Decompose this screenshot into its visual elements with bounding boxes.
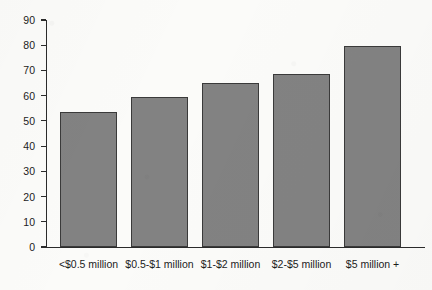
bar	[131, 97, 188, 247]
y-tick-mark	[41, 196, 46, 197]
y-tick-label: 70	[5, 65, 35, 75]
y-tick-mark	[41, 19, 46, 20]
y-tick-mark	[41, 45, 46, 46]
y-tick-label: 80	[5, 40, 35, 50]
y-tick-mark	[41, 221, 46, 222]
y-tick-mark	[41, 246, 46, 247]
bar	[344, 46, 401, 247]
x-category-label: $5 million +	[328, 259, 418, 270]
x-axis-line	[46, 247, 425, 248]
y-tick-mark	[41, 146, 46, 147]
y-tick-label: 90	[5, 15, 35, 25]
y-tick-label: 0	[5, 242, 35, 252]
y-tick-mark	[41, 70, 46, 71]
y-tick-mark	[41, 95, 46, 96]
y-tick-label: 30	[5, 166, 35, 176]
y-tick-label: 10	[5, 217, 35, 227]
y-tick-label: 40	[5, 141, 35, 151]
bar	[202, 83, 259, 247]
y-tick-label: 50	[5, 116, 35, 126]
bar	[60, 112, 117, 247]
y-axis-line	[46, 20, 47, 248]
bar	[273, 74, 330, 247]
bar-chart: 9080706050403020100 <$0.5 million$0.5-$1…	[0, 0, 432, 290]
y-tick-mark	[41, 120, 46, 121]
y-tick-mark	[41, 171, 46, 172]
y-tick-label: 20	[5, 192, 35, 202]
y-tick-label: 60	[5, 91, 35, 101]
